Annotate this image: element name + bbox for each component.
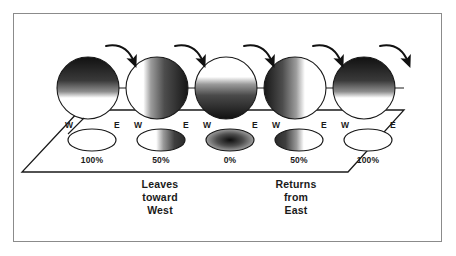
ground-ellipse-5 <box>344 129 392 151</box>
east-label-4: E <box>317 120 331 132</box>
ground-ellipse-1 <box>68 129 116 151</box>
annotation-left-line2: toward <box>120 191 200 204</box>
annotation-right-line2: from <box>256 191 336 204</box>
sphere-2 <box>126 57 188 119</box>
figure-canvas: W E W E W E W E W E 100% 50% 0% 50% 100%… <box>0 0 456 256</box>
sphere-5 <box>333 57 395 119</box>
west-label-1: W <box>62 120 76 132</box>
rotation-arrow-4 <box>313 45 341 62</box>
east-label-1: E <box>110 120 124 132</box>
rotation-arrow-5 <box>380 45 408 62</box>
annotation-left-line3: West <box>120 204 200 217</box>
ground-ellipse-4 <box>275 129 323 151</box>
east-label-2: E <box>179 120 193 132</box>
sphere-1 <box>57 57 119 119</box>
ground-ellipse-2 <box>137 129 185 151</box>
percent-label-2: 50% <box>139 155 183 167</box>
percent-label-5: 100% <box>346 155 390 167</box>
percent-label-1: 100% <box>70 155 114 167</box>
annotation-left-line1: Leaves <box>120 178 200 191</box>
rotation-arrow-2 <box>175 45 203 62</box>
east-label-5: E <box>386 120 400 132</box>
rotation-arrow-3 <box>244 45 272 62</box>
percent-label-4: 50% <box>277 155 321 167</box>
rotation-arrow-1 <box>106 45 134 62</box>
west-label-3: W <box>200 120 214 132</box>
annotation-right-line1: Returns <box>256 178 336 191</box>
ground-ellipse-3 <box>206 129 254 151</box>
west-label-4: W <box>269 120 283 132</box>
sphere-4 <box>264 57 326 119</box>
sphere-3 <box>195 57 257 119</box>
east-label-3: E <box>248 120 262 132</box>
west-label-5: W <box>338 120 352 132</box>
annotation-right-line3: East <box>256 204 336 217</box>
percent-label-3: 0% <box>208 155 252 167</box>
west-label-2: W <box>131 120 145 132</box>
